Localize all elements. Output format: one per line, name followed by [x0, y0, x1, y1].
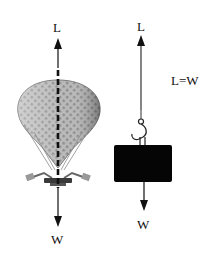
weight-arrow-left — [54, 188, 62, 227]
weight-arrow-right — [140, 182, 148, 211]
lift-arrow-right — [137, 35, 145, 110]
hook — [132, 110, 146, 146]
force-diagram: L W L W L=W — [0, 0, 216, 255]
weight-label-left: W — [51, 233, 63, 246]
equilibrium-equation: L=W — [171, 74, 199, 87]
lift-label-right: L — [137, 20, 145, 33]
lift-arrow-left — [54, 38, 62, 68]
lift-label-left: L — [53, 21, 61, 34]
weight-label-right: W — [137, 218, 149, 231]
weight-block — [114, 145, 172, 182]
